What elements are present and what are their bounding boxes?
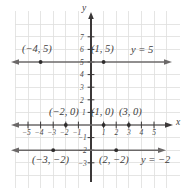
point-3-0: [127, 123, 131, 127]
x-tick-label-3: 3: [127, 129, 131, 137]
y-tick-label-2: 2: [80, 97, 84, 105]
x-tick-label--2: −2: [60, 129, 69, 137]
point-label-1-5: (1, 5): [91, 44, 114, 55]
line-yneg2-arrow-right: [158, 147, 166, 153]
point-label-2-neg2: (2, −2): [99, 155, 129, 166]
x-tick-label--3: −3: [47, 129, 56, 137]
point-label-neg3-neg2: (−3, −2): [32, 155, 69, 166]
y-tick-label--2: −2: [78, 147, 87, 155]
x-tick-label--5: −5: [22, 129, 31, 137]
x-tick-label-2: 2: [114, 129, 118, 137]
y-tick-label-6: 6: [80, 46, 84, 54]
y-axis-label: y: [82, 4, 86, 14]
equation-label-yneg2: y = −2: [141, 155, 170, 166]
point-1-0: [102, 123, 106, 127]
y-tick-label-1: 1: [82, 109, 86, 117]
x-tick-label-4: 4: [140, 129, 144, 137]
y-tick-label-7: 7: [80, 34, 84, 42]
y-axis-arrow-up: [88, 12, 94, 19]
point-neg3-neg2: [51, 148, 55, 152]
point-1-5: [102, 60, 106, 64]
y-tick-label-4: 4: [80, 71, 84, 79]
point-label-3-0: (3, 0): [119, 107, 142, 118]
y-tick-label--3: −3: [78, 160, 87, 168]
x-axis-label: x: [176, 118, 180, 128]
point-label-neg4-5: (−4, 5): [22, 44, 52, 55]
equation-label-y5: y = 5: [131, 45, 153, 56]
point-label-neg2-0: (−2, 0): [49, 107, 79, 118]
point-2-neg2: [114, 148, 118, 152]
x-tick-label-1: 1: [102, 129, 106, 137]
x-axis-arrow-right: [165, 122, 173, 128]
point-label-1-0: (1, 0): [91, 107, 114, 118]
x-tick-label-5: 5: [152, 129, 156, 137]
y-tick-label--1: −1: [78, 134, 87, 142]
line-y5-arrow-right: [164, 59, 172, 65]
point-neg2-0: [64, 123, 68, 127]
y-tick-label-5: 5: [80, 59, 84, 67]
point-neg4-5: [39, 60, 43, 64]
coordinate-plane-figure: y x (−4, 5) (1, 5) (−2, 0) (1, 0) (3, 0)…: [0, 0, 187, 188]
y-tick-label-3: 3: [80, 84, 84, 92]
x-tick-label--4: −4: [35, 129, 44, 137]
